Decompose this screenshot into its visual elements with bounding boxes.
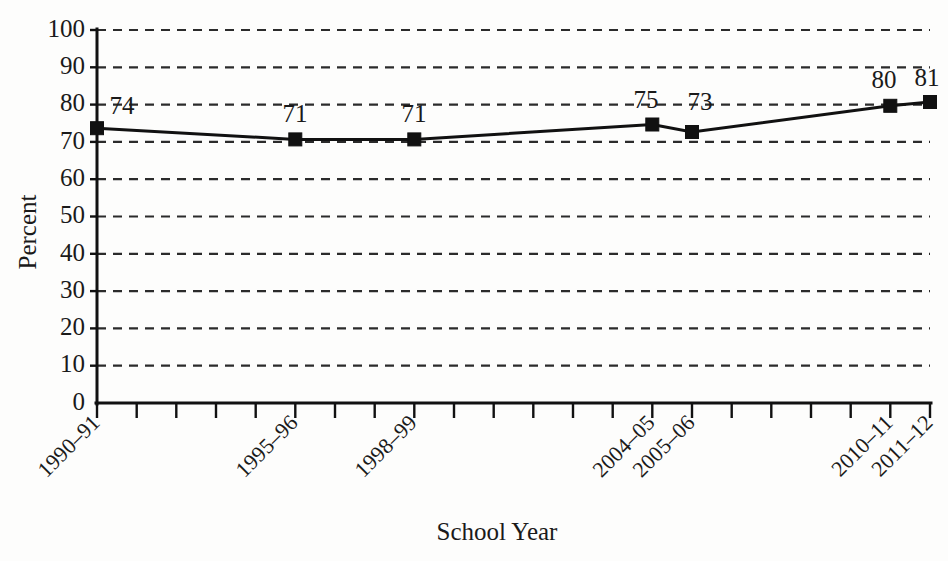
data-point-marker	[289, 133, 302, 146]
data-label-1990-91: 74	[110, 92, 136, 119]
series-line-percent	[97, 102, 930, 139]
data-value-labels-group: 74 71 71 75 73 80 81	[110, 64, 940, 127]
x-axis-title: School Year	[437, 518, 559, 545]
y-tick-label-60: 60	[60, 164, 85, 191]
data-point-marker	[91, 122, 104, 135]
data-label-2011-12: 81	[915, 64, 940, 91]
data-point-marker	[646, 118, 659, 131]
y-axis-tick-labels-group: 100 90 80 70 60 50 40 30 20 10 0	[48, 15, 86, 415]
line-chart-canvas: 100 90 80 70 60 50 40 30 20 10 0	[0, 0, 948, 561]
y-tick-label-80: 80	[60, 89, 85, 116]
x-axis-tick-labels-group: 1990–91 1995–96 1998–99 2004–05 2005–06 …	[32, 410, 937, 482]
data-label-1998-99: 71	[402, 100, 427, 127]
x-axis-ticks-group	[97, 403, 930, 418]
data-label-2005-06: 73	[688, 88, 713, 115]
gridlines-group	[97, 30, 930, 366]
data-point-marker	[924, 96, 937, 109]
x-tick-label-1998-99: 1998–99	[349, 410, 421, 482]
y-tick-label-50: 50	[60, 201, 85, 228]
y-axis-title: Percent	[14, 194, 41, 269]
chart-figure: 100 90 80 70 60 50 40 30 20 10 0	[0, 0, 948, 561]
data-label-1995-96: 71	[283, 100, 308, 127]
data-label-2010-11: 80	[872, 66, 897, 93]
y-tick-label-0: 0	[73, 388, 86, 415]
y-tick-label-30: 30	[60, 276, 85, 303]
data-point-marker	[408, 133, 421, 146]
y-tick-label-20: 20	[60, 313, 85, 340]
x-tick-label-1990-91: 1990–91	[32, 410, 104, 482]
data-point-marker	[686, 126, 699, 139]
y-tick-label-90: 90	[60, 52, 85, 79]
data-label-2004-05: 75	[634, 86, 659, 113]
y-tick-label-100: 100	[48, 15, 86, 42]
series-group	[91, 96, 937, 146]
data-point-marker	[884, 99, 897, 112]
y-tick-label-10: 10	[60, 350, 85, 377]
y-tick-label-40: 40	[60, 239, 85, 266]
x-tick-label-1995-96: 1995–96	[230, 410, 302, 482]
y-tick-label-70: 70	[60, 127, 85, 154]
